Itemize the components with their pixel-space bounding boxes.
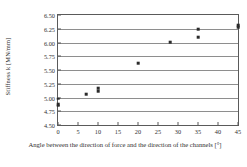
x-tick-mark xyxy=(198,122,199,125)
data-point-marker xyxy=(57,104,60,107)
y-tick-label: 4.50 xyxy=(44,122,55,129)
gridline xyxy=(58,29,238,30)
y-tick-label: 6.25 xyxy=(44,25,55,32)
plot-area: 4.504.755.005.255.505.756.006.256.50 051… xyxy=(57,14,239,126)
x-tick-label: 15 xyxy=(115,128,121,135)
y-tick-mark xyxy=(58,70,61,71)
y-tick-label: 6.50 xyxy=(44,12,55,19)
x-tick-label: 5 xyxy=(76,128,79,135)
x-tick-label: 20 xyxy=(135,128,141,135)
x-tick-mark xyxy=(178,122,179,125)
y-tick-label: 6.00 xyxy=(44,39,55,46)
x-axis-title: Angle between the direction of force and… xyxy=(14,140,236,150)
y-tick-label: 4.75 xyxy=(44,108,55,115)
x-tick-label: 40 xyxy=(215,128,221,135)
x-tick-label: 10 xyxy=(95,128,101,135)
y-tick-mark xyxy=(58,15,61,16)
data-point-marker xyxy=(197,28,200,31)
data-point-marker xyxy=(85,93,88,96)
gridline xyxy=(58,56,238,57)
x-tick-label: 45 xyxy=(235,128,241,135)
x-tick-mark xyxy=(78,122,79,125)
y-tick-mark xyxy=(58,111,61,112)
data-point-marker xyxy=(97,87,100,90)
data-point-marker xyxy=(137,62,140,65)
gridline xyxy=(58,43,238,44)
y-tick-mark xyxy=(58,83,61,84)
x-tick-label: 0 xyxy=(56,128,59,135)
data-point-marker xyxy=(169,41,172,44)
scatter-chart-figure: Stiffness k [MN/mm] 4.504.755.005.255.50… xyxy=(0,0,247,167)
x-tick-mark xyxy=(238,122,239,125)
gridline xyxy=(58,84,238,85)
x-tick-mark xyxy=(58,122,59,125)
y-tick-label: 5.50 xyxy=(44,67,55,74)
y-tick-label: 5.75 xyxy=(44,53,55,60)
y-tick-label: 5.00 xyxy=(44,94,55,101)
x-tick-label: 25 xyxy=(155,128,161,135)
gridline xyxy=(58,70,238,71)
data-point-marker xyxy=(197,36,200,39)
x-tick-mark xyxy=(118,122,119,125)
x-tick-label: 30 xyxy=(175,128,181,135)
gridline xyxy=(58,98,238,99)
x-tick-mark xyxy=(98,122,99,125)
y-tick-mark xyxy=(58,28,61,29)
x-tick-label: 35 xyxy=(195,128,201,135)
x-tick-mark xyxy=(138,122,139,125)
data-point-marker xyxy=(57,97,60,100)
y-axis-title: Stiffness k [MN/mm] xyxy=(0,0,16,132)
x-tick-mark xyxy=(218,122,219,125)
y-tick-label: 5.25 xyxy=(44,80,55,87)
x-tick-mark xyxy=(158,122,159,125)
y-axis-title-text: Stiffness k [MN/mm] xyxy=(5,37,12,95)
data-point-marker xyxy=(97,90,100,93)
gridline xyxy=(58,111,238,112)
y-tick-mark xyxy=(58,42,61,43)
data-point-marker xyxy=(237,26,240,29)
y-tick-mark xyxy=(58,56,61,57)
